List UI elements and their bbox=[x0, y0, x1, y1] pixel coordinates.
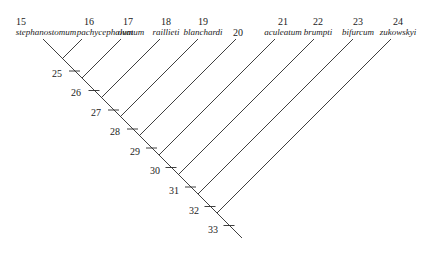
cladogram-svg: 15 16 17 18 19 20 21 22 23 24 stephanost… bbox=[0, 0, 422, 255]
taxon-name-blanchardi: blanchardi bbox=[183, 27, 223, 37]
node-ticks bbox=[69, 71, 235, 226]
taxon-name-aculeatum: aculeatum bbox=[264, 27, 302, 37]
tree-lines bbox=[43, 39, 391, 238]
cladogram: 15 16 17 18 19 20 21 22 23 24 stephanost… bbox=[0, 0, 422, 255]
taxon-number-19: 19 bbox=[198, 16, 208, 27]
node-label-30: 30 bbox=[150, 165, 160, 176]
branch-line-21 bbox=[159, 39, 275, 155]
branch-line-18 bbox=[102, 39, 161, 98]
node-label-32: 32 bbox=[189, 205, 199, 216]
node-label-27: 27 bbox=[91, 107, 101, 118]
trunk-line bbox=[43, 39, 242, 238]
taxon-number-21: 21 bbox=[278, 16, 288, 27]
branch-line-22 bbox=[179, 39, 315, 175]
branch-line-19 bbox=[121, 39, 199, 117]
branch-line-16 bbox=[63, 39, 83, 59]
taxon-number-16: 16 bbox=[84, 16, 94, 27]
taxon-number-24: 24 bbox=[393, 16, 403, 27]
taxon-number-23: 23 bbox=[353, 16, 363, 27]
taxon-name-stephanostomum: stephanostomum bbox=[16, 27, 77, 37]
node-label-28: 28 bbox=[110, 126, 120, 137]
taxon-name-zukowskyi: zukowskyi bbox=[379, 27, 417, 37]
branch-line-20 bbox=[140, 39, 237, 136]
branch-line-17 bbox=[82, 39, 121, 78]
taxon-number-17: 17 bbox=[123, 16, 133, 27]
node-label-31: 31 bbox=[169, 185, 179, 196]
taxon-name-raillieti: raillieti bbox=[153, 27, 180, 37]
node-label-29: 29 bbox=[130, 146, 140, 157]
taxon-number-15: 15 bbox=[16, 16, 26, 27]
branch-line-23 bbox=[198, 39, 353, 194]
taxon-name-bifurcum: bifurcum bbox=[342, 27, 375, 37]
taxon-number-20: 20 bbox=[233, 27, 243, 38]
taxon-name-ovatum: ovatum bbox=[118, 27, 145, 37]
taxon-name-brumpti: brumpti bbox=[304, 27, 333, 37]
node-label-25: 25 bbox=[52, 68, 62, 79]
taxon-number-22: 22 bbox=[313, 16, 323, 27]
node-label-33: 33 bbox=[208, 224, 218, 235]
taxon-number-18: 18 bbox=[161, 16, 171, 27]
branch-line-24 bbox=[217, 39, 391, 213]
node-label-26: 26 bbox=[71, 87, 81, 98]
